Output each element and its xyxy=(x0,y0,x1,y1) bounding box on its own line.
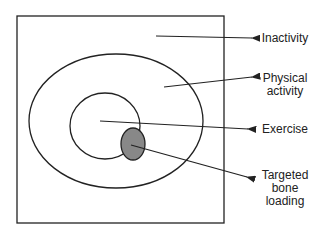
label-exercise: Exercise xyxy=(255,123,315,136)
exercise-arrow xyxy=(100,121,248,129)
targeted-arrow xyxy=(131,145,247,177)
label-inactivity: Inactivity xyxy=(255,32,315,45)
inactivity-arrow xyxy=(156,36,252,38)
label-targeted-bone-loading: Targeted bone loading xyxy=(255,169,315,208)
physical-activity-arrow xyxy=(164,77,252,87)
targeted-bone-loading-ellipse xyxy=(121,128,145,160)
physical-activity-ellipse xyxy=(29,54,203,188)
label-physical-line2: activity xyxy=(255,85,315,98)
inactivity-box xyxy=(17,16,224,223)
label-physical-activity: Physical activity xyxy=(255,72,315,98)
label-targeted-line3: loading xyxy=(255,195,315,208)
